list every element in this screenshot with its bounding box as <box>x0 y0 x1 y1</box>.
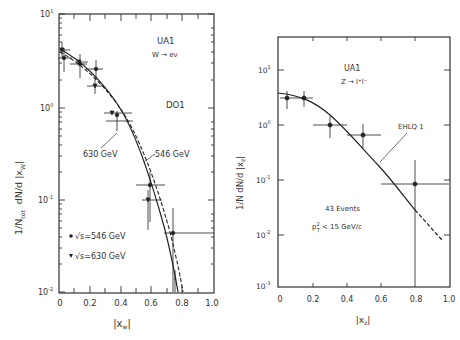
right-ylabel: 1/N dN/d |xz| <box>235 156 246 210</box>
right-ytick-1: 101 <box>258 64 271 75</box>
right-process-label: Z → l⁺l⁻ <box>341 78 368 86</box>
svg-text:0.4: 0.4 <box>341 295 354 304</box>
svg-text:0: 0 <box>277 295 282 304</box>
legend-546: √s=546 GeV <box>75 232 126 241</box>
svg-text:0: 0 <box>57 298 62 308</box>
svg-text:0.8: 0.8 <box>175 298 189 308</box>
legend-630: √s=630 GeV <box>75 252 126 261</box>
svg-text:1.0: 1.0 <box>205 298 219 308</box>
arrow-ehlq <box>380 133 407 162</box>
legend-circle-marker <box>69 234 73 238</box>
left-process-label: W → eν <box>152 51 178 59</box>
curve-ehlq1-solid <box>278 93 415 210</box>
svg-text:1.0: 1.0 <box>443 295 456 304</box>
left-model-label: DO1 <box>166 100 185 110</box>
svg-text:0.4: 0.4 <box>114 298 128 308</box>
curve-ehlq1-dashed <box>415 210 442 240</box>
right-ytick-0: 100 <box>258 119 271 130</box>
left-ytick-0: 100 <box>40 102 53 113</box>
right-xlabel: |xz| <box>356 315 371 326</box>
right-experiment-label: UA1 <box>344 64 360 73</box>
right-ytick-m2: 10-2 <box>256 229 271 240</box>
figure: 101 100 10-1 10-2 0 0.2 0.4 0.6 0.8 1.0 … <box>0 0 460 340</box>
svg-text:0.8: 0.8 <box>410 295 423 304</box>
svg-text:0.2: 0.2 <box>307 295 320 304</box>
left-xlabel: |xw| <box>113 318 131 330</box>
arrow-630 <box>101 133 117 148</box>
left-experiment-label: UA1 <box>157 36 174 46</box>
left-ytick-m2: 10-2 <box>38 286 53 297</box>
right-data <box>280 91 449 287</box>
events-label: 43 Events <box>325 205 360 213</box>
right-ytick-m3: 10-3 <box>256 280 271 291</box>
right-chart: 101 100 10-1 10-2 10-3 0 0.2 0.4 0.6 0.8… <box>235 37 455 326</box>
legend-triangle-marker <box>69 254 73 258</box>
left-ytick-m1: 10-1 <box>38 194 53 205</box>
left-chart: 101 100 10-1 10-2 0 0.2 0.4 0.6 0.8 1.0 … <box>13 8 219 330</box>
pt-cut-label: p2T < 15 GeV/c <box>312 221 362 233</box>
left-xtick-labels: 0 0.2 0.4 0.6 0.8 1.0 <box>57 298 218 308</box>
right-xtick-labels: 0 0.2 0.4 0.6 0.8 1.0 <box>277 295 455 304</box>
right-ticks <box>278 37 450 287</box>
right-model-label: EHLQ 1 <box>398 123 424 131</box>
right-plot-frame <box>278 37 450 287</box>
left-ylabel: 1/NtotdN/d |xW| <box>13 161 26 235</box>
svg-text:0.6: 0.6 <box>375 295 388 304</box>
left-ytick-1: 101 <box>40 8 53 19</box>
right-ytick-m1: 10-1 <box>256 174 271 185</box>
label-546-gev: 546 GeV <box>155 150 190 159</box>
label-630-gev: 630 GeV <box>83 150 118 159</box>
svg-text:0.2: 0.2 <box>83 298 97 308</box>
svg-text:0.6: 0.6 <box>144 298 158 308</box>
